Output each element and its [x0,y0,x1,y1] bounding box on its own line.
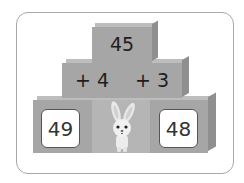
top-value-45: 45 [92,33,152,55]
bottom-row-side-face [208,92,216,151]
number-box-48: 48 [159,109,198,148]
top-block-side-face [152,21,158,61]
number-box-49: 49 [41,109,80,148]
middle-row-side-face [182,56,189,97]
operation-plus-4: + 4 [62,69,122,91]
operation-plus-3: + 3 [122,69,182,91]
rabbit-icon [105,101,139,153]
